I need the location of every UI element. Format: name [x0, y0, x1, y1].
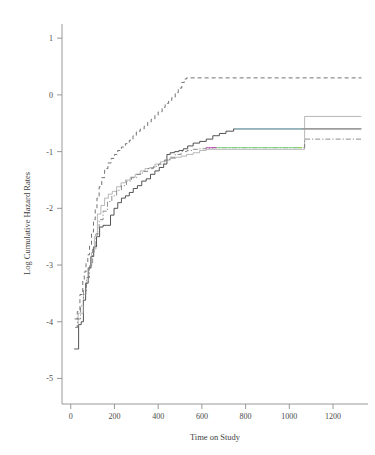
- y-tick-label: -3: [46, 261, 53, 270]
- x-tick-label: 800: [240, 412, 252, 421]
- x-tick-label: 200: [108, 412, 120, 421]
- x-tick-group: 020040060080010001200: [69, 404, 341, 421]
- x-tick-label: 1000: [281, 412, 297, 421]
- series-group: [74, 78, 361, 349]
- chart-canvas: 10-1-2-3-4-5 020040060080010001200 Log C…: [0, 0, 375, 455]
- y-tick-label: -1: [46, 148, 53, 157]
- series-line: [75, 78, 362, 319]
- y-tick-label: -5: [46, 374, 53, 383]
- series-line: [75, 139, 361, 327]
- chart-figure: 10-1-2-3-4-5 020040060080010001200 Log C…: [0, 0, 375, 455]
- colored-overlay-group: [206, 129, 303, 148]
- x-axis-title: Time on Study: [190, 432, 241, 442]
- x-tick-label: 0: [69, 412, 73, 421]
- x-tick-label: 1200: [325, 412, 341, 421]
- y-tick-label: -4: [46, 318, 53, 327]
- y-tick-label: 1: [49, 34, 53, 43]
- y-tick-label: 0: [49, 91, 53, 100]
- x-tick-label: 600: [196, 412, 208, 421]
- y-tick-group: 10-1-2-3-4-5: [46, 34, 62, 383]
- y-tick-label: -2: [46, 204, 53, 213]
- x-tick-label: 400: [152, 412, 164, 421]
- y-axis-title: Log Cumulative Hazard Rates: [22, 172, 32, 275]
- series-line: [74, 129, 361, 349]
